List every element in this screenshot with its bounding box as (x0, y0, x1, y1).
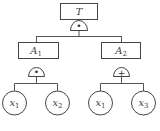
top-event-T: T (61, 4, 98, 20)
lower-connectors (15, 77, 144, 92)
basic-event-x1-right: x1 (89, 91, 113, 115)
basic-event-x3: x3 (132, 91, 156, 115)
A2-or-gate: + (114, 68, 130, 78)
basic-event-x2: x2 (46, 91, 70, 115)
and-gate-symbol-icon: • (76, 21, 81, 31)
event-A2-subscript: 2 (122, 50, 126, 58)
and-gate-symbol-icon: • (34, 67, 39, 77)
event-A1-subscript: 1 (37, 50, 41, 58)
event-A2: A2 (102, 43, 141, 59)
event-A1: A1 (19, 43, 59, 59)
event-A2-label: A (114, 45, 122, 56)
event-A1-label: A (29, 45, 37, 56)
A1-and-gate: • (29, 67, 45, 77)
top-connectors (36, 31, 122, 43)
top-and-gate: • (71, 21, 88, 32)
fault-tree-diagram: T • A1 A2 • + (0, 0, 160, 131)
basic-event-x1-left: x1 (3, 91, 27, 115)
or-gate-symbol-icon: + (118, 68, 126, 78)
